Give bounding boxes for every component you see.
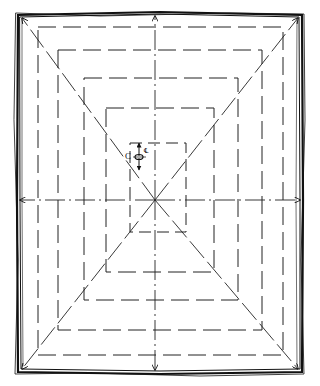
diagonal-bottom-right bbox=[155, 200, 298, 369]
plan-sketch bbox=[0, 0, 320, 386]
contour-ring-2 bbox=[58, 50, 262, 330]
contour-ring-3 bbox=[84, 78, 238, 300]
contour-ring-4 bbox=[106, 108, 214, 272]
contour-rings bbox=[38, 27, 283, 355]
diagonal-bottom-left bbox=[22, 200, 155, 369]
diagonal-top-left bbox=[22, 18, 155, 200]
diagonal-top-right bbox=[155, 18, 298, 200]
contour-ring-5 bbox=[130, 143, 186, 232]
annotation-label: C bbox=[125, 152, 131, 161]
centerline-glyph-icon: ℄ bbox=[144, 148, 149, 155]
diagonal-lines bbox=[22, 18, 298, 369]
contour-ring-1 bbox=[38, 27, 283, 355]
